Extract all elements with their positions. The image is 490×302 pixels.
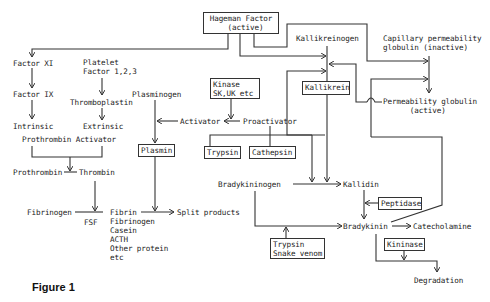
figure-caption: Figure 1 bbox=[32, 281, 75, 293]
node-peptidase: Peptidase bbox=[378, 197, 422, 210]
node-platelet-factor: Platelet Factor 1,2,3 bbox=[83, 58, 137, 76]
node-kallikrein: Kallikrein bbox=[302, 81, 350, 95]
node-kininase: Kininase bbox=[384, 238, 425, 251]
node-capillary-permeability-globulin: Capillary permeability globulin (inactiv… bbox=[383, 34, 481, 52]
node-bradykininogen: Bradykininogen bbox=[218, 180, 281, 189]
node-cathepsin: Cathepsin bbox=[249, 146, 296, 159]
node-prothrombin-activator: Prothrombin Activator bbox=[22, 135, 116, 144]
node-thrombin: Thrombin bbox=[79, 168, 115, 177]
arrow-bradykininogen-to-bradykinin bbox=[255, 191, 342, 226]
line-crossing-hop bbox=[367, 98, 382, 102]
node-kinase: Kinase SK,UK etc bbox=[210, 78, 260, 99]
node-plasminogen: Plasminogen bbox=[132, 90, 181, 99]
node-trypsin: Trypsin bbox=[204, 146, 241, 159]
node-proactivator: Proactivator bbox=[243, 117, 297, 126]
node-activator: Activator bbox=[180, 117, 220, 126]
node-fsf: FSF bbox=[84, 218, 97, 227]
node-bradykinin: Bradykinin bbox=[343, 222, 388, 231]
node-prothrombin: Prothrombin bbox=[13, 168, 62, 177]
bracket-prothrombin-activator bbox=[32, 146, 102, 157]
node-trypsin-snake-venom: Trypsin Snake venom bbox=[270, 238, 325, 259]
node-thromboplastin: Thromboplastin bbox=[70, 98, 133, 107]
node-degradation: Degradation bbox=[414, 276, 463, 285]
coagulation-kinin-pathway-diagram: Hageman Factor (active) Factor XI Factor… bbox=[0, 0, 490, 302]
node-kallikreinogen: Kallikreinogen bbox=[296, 34, 359, 43]
node-plasmin-substrates: Fibrin Fibrinogen Casein ACTH Other prot… bbox=[110, 208, 168, 262]
arrow-hageman-to-factor-xi bbox=[32, 34, 228, 57]
node-hageman-factor: Hageman Factor (active) bbox=[203, 12, 279, 34]
node-extrinsic: Extrinsic bbox=[83, 122, 123, 131]
node-plasmin: Plasmin bbox=[138, 144, 175, 157]
node-split-products: Split products bbox=[177, 208, 240, 217]
node-factor-ix: Factor IX bbox=[13, 90, 53, 99]
node-permeability-globulin-active: Permeability globulin (active) bbox=[383, 97, 477, 115]
node-fibrinogen: Fibrinogen bbox=[27, 208, 72, 217]
node-kallidin: Kallidin bbox=[343, 180, 379, 189]
node-intrinsic: Intrinsic bbox=[13, 122, 53, 131]
node-catecholamine: Catecholamine bbox=[413, 222, 471, 231]
node-factor-xi: Factor XI bbox=[13, 59, 53, 68]
